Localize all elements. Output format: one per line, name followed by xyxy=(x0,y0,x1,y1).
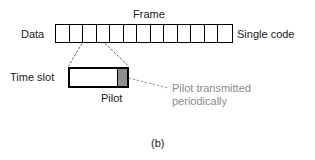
time-slot-label: Time slot xyxy=(10,71,54,83)
frame-slot xyxy=(56,25,70,42)
pilot-callout-line-1: Pilot transmitted xyxy=(172,82,251,95)
frame-slot xyxy=(205,25,219,42)
frame-slot xyxy=(83,25,97,42)
time-slot-box xyxy=(68,67,129,88)
pilot-leader-line xyxy=(125,77,168,88)
expansion-line-left xyxy=(69,44,83,67)
frame-slot xyxy=(178,25,192,42)
pilot-segment xyxy=(117,69,127,86)
figure-canvas: Frame Data Single code Time slot Pilot P… xyxy=(0,0,315,160)
frame-slot xyxy=(191,25,205,42)
frame-bar xyxy=(55,24,233,43)
data-label: Data xyxy=(21,28,44,40)
pilot-label: Pilot xyxy=(101,92,122,104)
frame-slot xyxy=(124,25,138,42)
expansion-line-right xyxy=(105,44,129,67)
time-slot-data-segment xyxy=(70,69,117,86)
frame-slot xyxy=(164,25,178,42)
frame-slot xyxy=(110,25,124,42)
frame-slot xyxy=(151,25,165,42)
subfigure-label: (b) xyxy=(151,137,164,149)
frame-slot xyxy=(97,25,111,42)
pilot-callout: Pilot transmitted periodically xyxy=(172,82,251,108)
single-code-label: Single code xyxy=(237,28,295,40)
frame-slot xyxy=(137,25,151,42)
pilot-callout-line-2: periodically xyxy=(172,95,251,108)
frame-slot xyxy=(70,25,84,42)
frame-label: Frame xyxy=(133,8,165,20)
frame-slot xyxy=(218,25,232,42)
